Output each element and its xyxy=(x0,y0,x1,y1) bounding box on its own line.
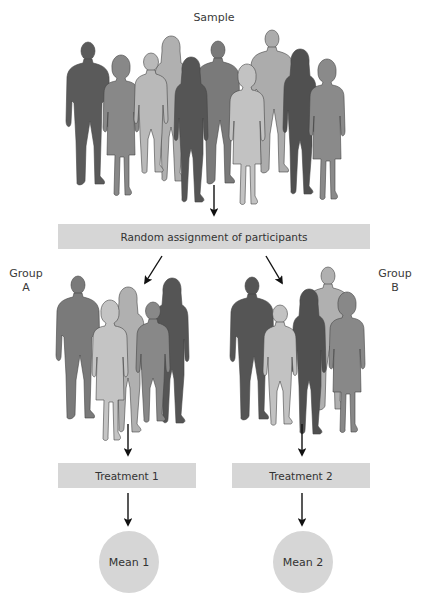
group-b-label-line1: Group xyxy=(375,267,415,281)
group-a-figures xyxy=(56,276,189,440)
mean-1-label: Mean 1 xyxy=(109,556,149,569)
group-b-figures xyxy=(230,267,365,434)
treatment-2-box: Treatment 2 xyxy=(232,463,370,488)
sample-figures xyxy=(66,30,345,204)
group-b-label-line2: B xyxy=(375,281,415,295)
random-assignment-label: Random assignment of participants xyxy=(120,231,307,243)
diagram-graphics xyxy=(0,0,429,605)
mean-2-label: Mean 2 xyxy=(283,556,323,569)
person-icon xyxy=(309,59,345,199)
mean-1-circle: Mean 1 xyxy=(99,531,159,593)
group-a-label: Group A xyxy=(6,267,46,295)
arrow-down-left-icon xyxy=(145,256,162,283)
treatment-1-label: Treatment 1 xyxy=(95,470,158,482)
group-b-label: Group B xyxy=(375,267,415,295)
group-a-label-line1: Group xyxy=(6,267,46,281)
sample-label: Sample xyxy=(184,11,244,25)
arrow-down-right-icon xyxy=(266,256,282,283)
random-assignment-box: Random assignment of participants xyxy=(58,224,370,249)
mean-2-circle: Mean 2 xyxy=(273,531,333,593)
treatment-1-box: Treatment 1 xyxy=(58,463,196,488)
group-a-label-line2: A xyxy=(6,281,46,295)
treatment-2-label: Treatment 2 xyxy=(269,470,332,482)
